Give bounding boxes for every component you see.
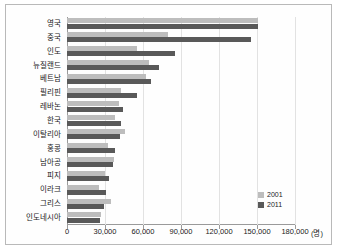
chart-legend: 20012011	[258, 191, 283, 211]
bar-2011	[67, 176, 109, 181]
bar-2011	[67, 93, 137, 98]
category-label: 레바논	[40, 102, 61, 111]
bar-group	[67, 114, 295, 128]
legend-label: 2011	[267, 201, 282, 209]
bar-2011	[67, 148, 115, 153]
category-label: 영국	[47, 19, 61, 28]
x-tickmark	[181, 225, 182, 229]
category-label: 한국	[47, 116, 61, 125]
bar-2011	[67, 51, 175, 56]
category-label: 베트남	[40, 74, 61, 83]
bar-2011	[67, 121, 121, 126]
bar-2011	[67, 134, 120, 139]
x-tickmark	[295, 225, 296, 229]
x-axis-tick-labels: 030,00060,00090,000120,000150,000180,000…	[6, 227, 333, 241]
bar-2011	[67, 79, 151, 84]
legend-label: 2001	[267, 191, 283, 199]
category-axis-labels: 영국중국인도뉴질랜드베트남필리핀레바논한국이탈리아홍콩남아공피지이라크그리스인도…	[6, 17, 65, 225]
bar-group	[67, 72, 295, 86]
bar-group	[67, 86, 295, 100]
category-label: 그리스	[40, 199, 61, 208]
category-label: 필리핀	[40, 88, 61, 97]
bar-2011	[67, 107, 123, 112]
bar-group	[67, 156, 295, 170]
category-label: 뉴질랜드	[33, 61, 61, 70]
bar-2011	[67, 24, 258, 29]
x-tickmark	[257, 225, 258, 229]
x-tickmark	[143, 225, 144, 229]
chart-frame: 영국중국인도뉴질랜드베트남필리핀레바논한국이탈리아홍콩남아공피지이라크그리스인도…	[5, 4, 332, 245]
bar-2011	[67, 65, 159, 70]
x-tickmark	[67, 225, 68, 229]
category-label: 인도	[47, 47, 61, 56]
bar-group	[67, 100, 295, 114]
bar-group	[67, 128, 295, 142]
bar-2011	[67, 37, 251, 42]
bar-group	[67, 17, 295, 31]
x-axis-unit-label: (명)	[311, 227, 323, 238]
bar-group	[67, 142, 295, 156]
category-label: 이라크	[40, 185, 61, 194]
bar-2011	[67, 204, 104, 209]
category-label: 피지	[47, 171, 61, 180]
bar-2011	[67, 162, 113, 167]
bar-group	[67, 170, 295, 184]
legend-swatch-icon	[258, 202, 264, 208]
category-label: 남아공	[40, 158, 61, 167]
category-label: 인도네시아	[26, 213, 61, 222]
legend-item[interactable]: 2001	[258, 191, 283, 199]
legend-item[interactable]: 2011	[258, 201, 283, 209]
x-tickmark	[105, 225, 106, 229]
bar-group	[67, 211, 295, 225]
gridline	[295, 17, 296, 225]
category-label: 중국	[47, 33, 61, 42]
bar-group	[67, 45, 295, 59]
legend-swatch-icon	[258, 192, 264, 198]
bar-2011	[67, 190, 106, 195]
category-label: 이탈리아	[33, 130, 61, 139]
bar-2011	[67, 218, 100, 223]
bar-group	[67, 31, 295, 45]
category-label: 홍콩	[47, 144, 61, 153]
x-tickmark	[219, 225, 220, 229]
bar-group	[67, 59, 295, 73]
